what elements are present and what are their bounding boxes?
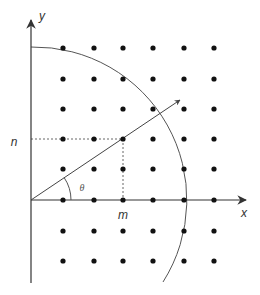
theta-angle-arc — [64, 178, 71, 200]
lattice-dot — [150, 258, 155, 263]
position-vector — [31, 100, 180, 200]
lattice-dot — [91, 258, 96, 263]
lattice-diagram: y x n m θ — [0, 0, 260, 295]
lattice-dot — [60, 228, 65, 233]
lattice-dot — [181, 228, 186, 233]
lattice-dot — [181, 106, 186, 111]
lattice-dot — [120, 76, 125, 81]
lattice-dot — [91, 136, 96, 141]
lattice-dot — [91, 197, 96, 202]
lattice-dot — [211, 258, 216, 263]
lattice-dot — [150, 228, 155, 233]
radius-circle-arc — [31, 47, 187, 282]
lattice-dot — [120, 45, 125, 50]
lattice-dot — [91, 228, 96, 233]
lattice-dot — [120, 197, 125, 202]
lattice-dot — [211, 76, 216, 81]
lattice-dot — [120, 166, 125, 171]
lattice-dot — [60, 166, 65, 171]
lattice-dot — [120, 106, 125, 111]
lattice-dot — [181, 76, 186, 81]
lattice-dot — [150, 106, 155, 111]
lattice-dot — [60, 136, 65, 141]
lattice-dot — [120, 136, 125, 141]
lattice-dot — [60, 258, 65, 263]
lattice-dot — [150, 197, 155, 202]
lattice-dot — [91, 76, 96, 81]
lattice-dot — [211, 136, 216, 141]
lattice-dot — [150, 166, 155, 171]
lattice-dot — [150, 136, 155, 141]
vector-arrow — [31, 100, 180, 200]
lattice-dot — [120, 228, 125, 233]
lattice-dot — [60, 197, 65, 202]
lattice-dot — [91, 45, 96, 50]
lattice-dot — [211, 166, 216, 171]
y-axis-label: y — [39, 10, 45, 22]
lattice-dot — [60, 45, 65, 50]
circle-arc — [31, 47, 187, 282]
theta-label: θ — [80, 183, 85, 193]
lattice-dot — [181, 197, 186, 202]
lattice-dot — [150, 45, 155, 50]
lattice-dot — [60, 106, 65, 111]
n-label: n — [11, 136, 18, 148]
x-axis-label: x — [241, 207, 247, 219]
lattice-dot — [60, 76, 65, 81]
lattice-points — [60, 45, 216, 263]
lattice-dot — [91, 106, 96, 111]
lattice-dot — [181, 258, 186, 263]
lattice-dot — [181, 166, 186, 171]
lattice-dot — [181, 136, 186, 141]
axes — [31, 20, 246, 283]
m-label: m — [118, 209, 128, 221]
lattice-dot — [211, 228, 216, 233]
lattice-dot — [211, 45, 216, 50]
lattice-dot — [150, 76, 155, 81]
lattice-dot — [181, 45, 186, 50]
lattice-dot — [211, 106, 216, 111]
lattice-dot — [211, 197, 216, 202]
lattice-dot — [91, 166, 96, 171]
angle-arc — [64, 178, 71, 200]
diagram-canvas — [0, 0, 260, 295]
lattice-dot — [120, 258, 125, 263]
